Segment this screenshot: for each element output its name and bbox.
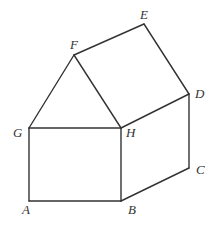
edge-GF	[29, 55, 74, 128]
edges	[29, 24, 189, 201]
house-diagram: ABCDEFGH	[0, 0, 217, 234]
vertex-label-e: E	[139, 7, 148, 22]
vertex-labels: ABCDEFGH	[13, 7, 205, 217]
vertex-label-h: H	[125, 125, 136, 140]
edge-FE	[74, 24, 144, 55]
vertex-label-f: F	[69, 37, 79, 52]
vertex-label-d: D	[194, 86, 205, 101]
vertex-label-a: A	[21, 202, 30, 217]
vertex-label-g: G	[13, 125, 23, 140]
edge-FH	[74, 55, 121, 128]
edge-DH	[121, 94, 189, 128]
vertex-label-b: B	[128, 202, 136, 217]
edge-CB	[121, 168, 189, 201]
vertex-label-c: C	[196, 162, 205, 177]
edge-ED	[144, 24, 189, 94]
